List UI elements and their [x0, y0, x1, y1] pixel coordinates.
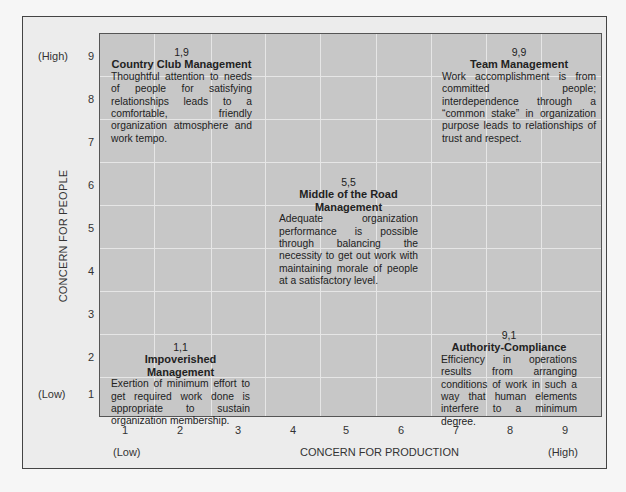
x-axis-title: CONCERN FOR PRODUCTION — [300, 446, 459, 458]
y-tick: 2 — [86, 351, 96, 363]
style-name: Team Management — [442, 58, 596, 70]
y-tick: 5 — [86, 222, 96, 234]
grid-line — [100, 162, 601, 163]
style-coord: 1,9 — [111, 46, 252, 58]
y-high-label: (High) — [38, 50, 68, 62]
x-tick: 5 — [336, 424, 356, 436]
grid-line — [431, 34, 432, 416]
style-description: Adequate organization performance is pos… — [279, 213, 418, 287]
style-team: 9,9 Team Management Work accomplishment … — [442, 46, 596, 145]
style-coord: 5,5 — [279, 176, 418, 188]
y-tick: 8 — [86, 93, 96, 105]
style-description: Thoughtful attention to needs of people … — [111, 71, 252, 145]
grid-line — [265, 34, 266, 416]
x-tick: 6 — [391, 424, 411, 436]
style-coord: 1,1 — [111, 341, 250, 353]
y-low-label: (Low) — [38, 388, 66, 400]
y-tick: 1 — [86, 388, 96, 400]
x-high-label: (High) — [548, 446, 578, 458]
style-middle-of-road: 5,5 Middle of the Road Management Adequa… — [279, 176, 418, 288]
y-axis-title: CONCERN FOR PEOPLE — [57, 161, 69, 311]
style-name: Middle of the Road Management — [279, 188, 418, 213]
x-tick: 4 — [283, 424, 303, 436]
x-low-label: (Low) — [113, 446, 141, 458]
style-coord: 9,9 — [442, 46, 596, 58]
y-tick: 9 — [86, 50, 96, 62]
y-tick: 7 — [86, 136, 96, 148]
style-coord: 9,1 — [441, 329, 577, 341]
style-description: Exertion of minimum effort to get requir… — [111, 378, 250, 428]
style-name: Country Club Management — [111, 58, 252, 70]
style-country-club: 1,9 Country Club Management Thoughtful a… — [111, 46, 252, 145]
style-name: Authority-Compliance — [441, 341, 577, 353]
style-description: Efficiency in operations results from ar… — [441, 354, 577, 428]
style-name: Impoverished Management — [111, 353, 250, 378]
style-description: Work accomplishment is from committed pe… — [442, 71, 596, 145]
y-tick: 4 — [86, 265, 96, 277]
grid-line — [100, 291, 601, 292]
y-tick: 6 — [86, 179, 96, 191]
style-impoverished: 1,1 Impoverished Management Exertion of … — [111, 341, 250, 428]
y-tick: 3 — [86, 308, 96, 320]
style-authority-compliance: 9,1 Authority-Compliance Efficiency in o… — [441, 329, 577, 428]
